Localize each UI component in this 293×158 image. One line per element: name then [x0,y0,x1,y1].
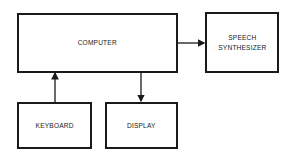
keyboard-box: KEYBOARD [17,102,92,149]
display-label: DISPLAY [127,121,156,130]
keyboard-label: KEYBOARD [35,121,73,130]
computer-box: COMPUTER [17,13,178,73]
computer-label: COMPUTER [78,38,117,47]
speech-synthesizer-label: SPEECH SYNTHESIZER [218,33,266,52]
speech-synthesizer-box: SPEECH SYNTHESIZER [205,12,279,73]
display-box: DISPLAY [105,102,178,149]
